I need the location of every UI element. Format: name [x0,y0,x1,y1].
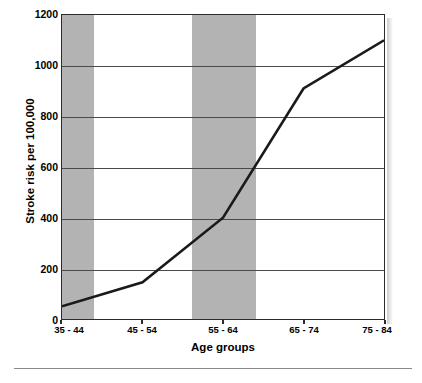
y-tick-label-1000: 1000 [4,60,58,70]
y-tick-label-600: 600 [4,162,58,172]
x-tick-label-4: 75 - 84 [342,324,412,335]
stroke-risk-line-chart: Stroke risk per 100,000 0200400600800100… [0,0,422,383]
x-tick-label-3: 65 - 74 [269,324,339,335]
stroke-risk-polyline-svg [62,15,384,319]
data-series-layer [62,15,384,319]
y-tick-label-800: 800 [4,111,58,121]
plot-drop-shadow [387,18,393,324]
y-tick-label-200: 200 [4,264,58,274]
caption-text [14,372,412,382]
x-tick-label-1: 45 - 54 [107,324,177,335]
x-axis-title: Age groups [61,341,385,353]
y-tick-label-1200: 1200 [4,9,58,19]
y-tick-label-400: 400 [4,213,58,223]
caption-divider [14,368,412,369]
x-tick-label-2: 55 - 64 [188,324,258,335]
x-axis-tick-labels: 35 - 4445 - 5455 - 6465 - 7475 - 84 [61,324,385,340]
plot-area [61,14,385,320]
stroke-risk-polyline [62,40,384,306]
x-tick-label-0: 35 - 44 [34,324,104,335]
